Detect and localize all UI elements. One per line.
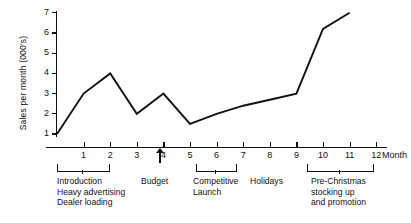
chart-figure: Sales per month (000's) 1234567 12345678… <box>0 0 411 223</box>
budget-arrow-shaft <box>159 150 161 163</box>
annotation-holidays: Holidays <box>250 176 283 187</box>
brace-introduction-nub <box>82 170 83 174</box>
annotation-prechristmas-line1: Pre-Christmas <box>311 176 366 187</box>
annotation-introduction-line3: Dealer loading <box>57 197 125 208</box>
annotation-competitive-line1: Competitive <box>193 176 238 187</box>
annotation-prechristmas-line2: stocking up <box>311 187 366 198</box>
annotation-budget: Budget <box>141 176 168 186</box>
brace-pre-christmas-nub <box>339 170 340 174</box>
annotation-prechristmas-line3: and promotion <box>311 197 366 208</box>
annotation-competitive-line2: Launch <box>193 187 238 198</box>
annotation-introduction-line1: Introduction <box>57 176 125 187</box>
brace-introduction <box>57 164 110 172</box>
annotation-pre-christmas: Pre-Christmas stocking up and promotion <box>311 176 366 208</box>
brace-pre-christmas <box>307 164 374 172</box>
annotation-introduction: Introduction Heavy advertising Dealer lo… <box>57 176 125 208</box>
annotation-competitive-launch: Competitive Launch <box>193 176 238 197</box>
brace-competitive-launch <box>196 164 237 172</box>
brace-competitive-launch-nub <box>215 170 216 174</box>
annotation-introduction-line2: Heavy advertising <box>57 187 125 198</box>
